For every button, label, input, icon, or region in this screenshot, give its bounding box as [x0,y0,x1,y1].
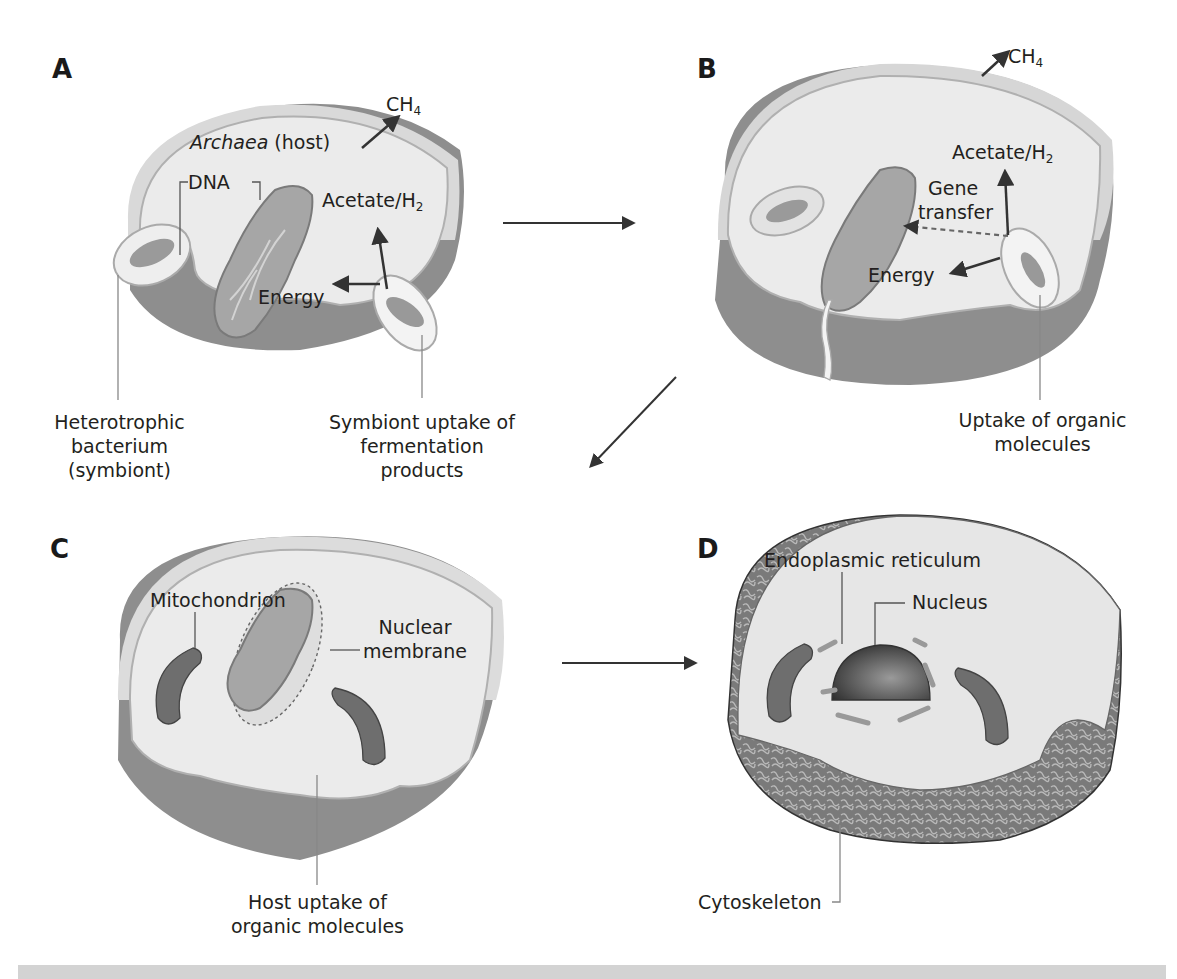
flow-arrow-b-to-c [591,377,676,466]
label-cytoskeleton: Cytoskeleton [698,890,822,914]
label-nucleus: Nucleus [912,590,988,614]
label-symbiont-uptake: Symbiont uptake of fermentation products [322,410,522,482]
label-host-uptake: Host uptake of organic molecules [225,890,410,938]
label-heterotrophic-bacterium: Heterotrophic bacterium (symbiont) [52,410,187,482]
label-dna: DNA [188,170,230,194]
label-methane-b: CH4 [1008,44,1043,75]
panel-b-cell [715,64,1114,385]
label-nuclear-membrane: Nuclear membrane [360,615,470,663]
label-endoplasmic-reticulum: Endoplasmic reticulum [764,548,981,572]
label-methane-a: CH4 [386,92,421,123]
label-archaea-host: Archaea (host) [190,130,330,154]
panel-label-b: B [697,54,717,84]
label-acetate-b: Acetate/H2 [952,140,1053,171]
panel-label-d: D [697,534,719,564]
label-energy-b: Energy [868,263,935,287]
footer-bar [18,965,1166,979]
panel-c-cell [118,536,504,860]
label-gene-transfer: Gene transfer [918,176,993,224]
label-uptake-organic: Uptake of organic molecules [955,408,1130,456]
label-mitochondrion: Mitochondrion [150,588,286,612]
panel-label-c: C [50,534,69,564]
label-energy-a: Energy [258,285,325,309]
label-acetate-a: Acetate/H2 [322,188,423,219]
panel-label-a: A [52,54,72,84]
